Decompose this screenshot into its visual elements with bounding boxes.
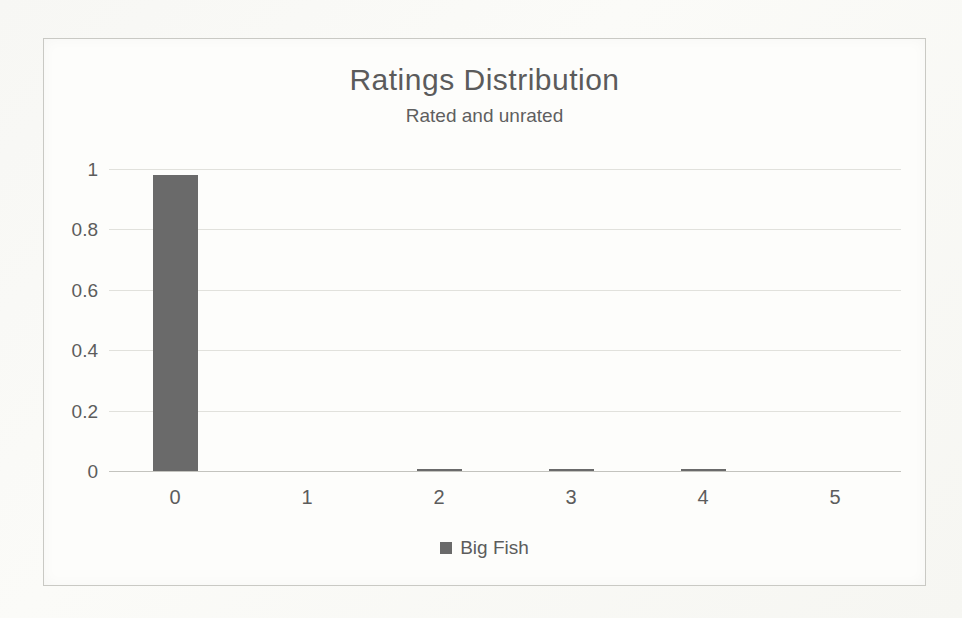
bar-category-2 — [417, 469, 462, 471]
bar-category-3 — [549, 469, 594, 471]
x-tick-label: 0 — [145, 486, 205, 509]
y-tick-label: 0.4 — [44, 341, 98, 360]
x-axis-line — [109, 471, 901, 472]
gridline — [109, 350, 901, 351]
legend-swatch-icon — [440, 542, 452, 554]
x-tick-label: 4 — [673, 486, 733, 509]
scanned-page: Ratings Distribution Rated and unrated 0… — [0, 0, 962, 618]
chart: Ratings Distribution Rated and unrated 0… — [43, 38, 926, 586]
x-tick-label: 3 — [541, 486, 601, 509]
y-tick-label: 0.6 — [44, 281, 98, 300]
gridline — [109, 229, 901, 230]
y-tick-label: 0 — [44, 462, 98, 481]
chart-title: Ratings Distribution — [44, 63, 925, 97]
y-tick-label: 0.2 — [44, 402, 98, 421]
gridline — [109, 169, 901, 170]
x-tick-label: 1 — [277, 486, 337, 509]
legend: Big Fish — [44, 537, 925, 559]
legend-series-label: Big Fish — [460, 537, 529, 559]
gridline — [109, 411, 901, 412]
x-tick-label: 5 — [805, 486, 865, 509]
y-tick-label: 0.8 — [44, 220, 98, 239]
y-tick-label: 1 — [44, 160, 98, 179]
plot-area — [109, 169, 901, 471]
x-tick-label: 2 — [409, 486, 469, 509]
bar-category-4 — [681, 469, 726, 471]
gridline — [109, 290, 901, 291]
chart-subtitle: Rated and unrated — [44, 105, 925, 127]
bar-category-0 — [153, 175, 198, 471]
